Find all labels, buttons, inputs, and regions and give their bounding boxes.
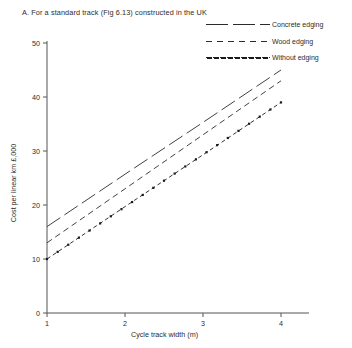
y-axis-title: Cost per linear km £,000 [9, 118, 18, 248]
series-line-wood-edging [47, 81, 281, 243]
series-marker [131, 201, 133, 203]
series-marker [184, 165, 186, 167]
series-marker [227, 137, 229, 139]
series-marker [46, 258, 48, 260]
series-line-concrete-edging [47, 70, 281, 227]
y-tick-label-30: 30 [32, 147, 40, 156]
chart-svg: 010203040501234 [0, 0, 352, 348]
series-marker [216, 144, 218, 146]
x-tick-label-1: 1 [45, 319, 49, 328]
y-tick-label-20: 20 [32, 201, 40, 210]
series-marker [237, 130, 239, 132]
plot-area: 010203040501234 Cost per linear km £,000… [0, 0, 352, 348]
series-marker [57, 251, 59, 253]
axes-group: 010203040501234 [32, 39, 309, 328]
series-marker [78, 237, 80, 239]
series-marker [205, 151, 207, 153]
series-marker [88, 229, 90, 231]
series-marker [120, 208, 122, 210]
series-marker [269, 108, 271, 110]
series-marker [99, 222, 101, 224]
series-marker [195, 158, 197, 160]
series-marker [163, 180, 165, 182]
y-tick-label-50: 50 [32, 39, 40, 48]
x-tick-label-2: 2 [123, 319, 127, 328]
x-tick-label-3: 3 [201, 319, 205, 328]
series-marker [174, 172, 176, 174]
series-group [46, 70, 282, 260]
y-tick-label-0: 0 [36, 309, 40, 318]
y-tick-label-10: 10 [32, 255, 40, 264]
series-marker [248, 123, 250, 125]
series-marker [152, 187, 154, 189]
series-marker [142, 194, 144, 196]
series-marker [259, 116, 261, 118]
x-axis-title: Cycle track width (m) [47, 330, 282, 339]
y-tick-label-40: 40 [32, 93, 40, 102]
x-tick-label-4: 4 [279, 319, 283, 328]
series-marker [67, 244, 69, 246]
figure-container: A. For a standard track (Fig 6.13) const… [0, 0, 352, 348]
series-marker [280, 101, 282, 103]
series-marker [110, 215, 112, 217]
